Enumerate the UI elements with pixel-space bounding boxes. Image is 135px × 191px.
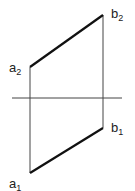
projection-diagram: [0, 0, 135, 191]
label-a2: a2: [9, 61, 21, 77]
segment-a2-b2: [30, 15, 103, 67]
label-b2: b2: [111, 7, 123, 23]
segment-a1-b1: [30, 128, 103, 173]
label-a1: a1: [9, 177, 21, 191]
label-b1: b1: [111, 121, 123, 137]
